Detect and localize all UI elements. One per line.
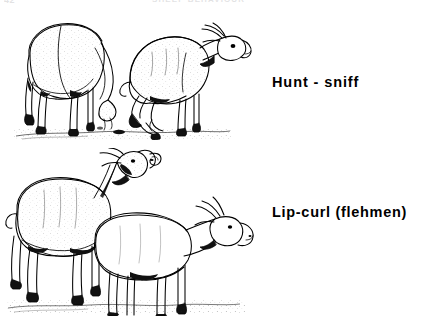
ground-line-lip-curl <box>6 300 246 313</box>
illustration-lip-curl <box>0 148 270 316</box>
caption-lip-curl: Lip-curl (flehmen) <box>272 204 407 220</box>
running-title: SHEEP BEHAVIOUR <box>152 0 245 4</box>
behaviour-row-hunt-sniff: Hunt - sniff <box>0 8 433 140</box>
running-header: 42 SHEEP BEHAVIOUR <box>0 0 433 4</box>
ram-hunt-sniff-drawing <box>0 8 258 140</box>
ground-line-hunt-sniff <box>14 126 232 139</box>
ram-lip-curl-flehmen-drawing <box>0 148 270 316</box>
page-folio-number: 42 <box>4 0 15 4</box>
illustration-hunt-sniff <box>0 8 258 140</box>
behaviour-row-lip-curl: Lip-curl (flehmen) <box>0 148 433 316</box>
figure-page: 42 SHEEP BEHAVIOUR <box>0 0 433 318</box>
caption-hunt-sniff: Hunt - sniff <box>272 74 359 90</box>
